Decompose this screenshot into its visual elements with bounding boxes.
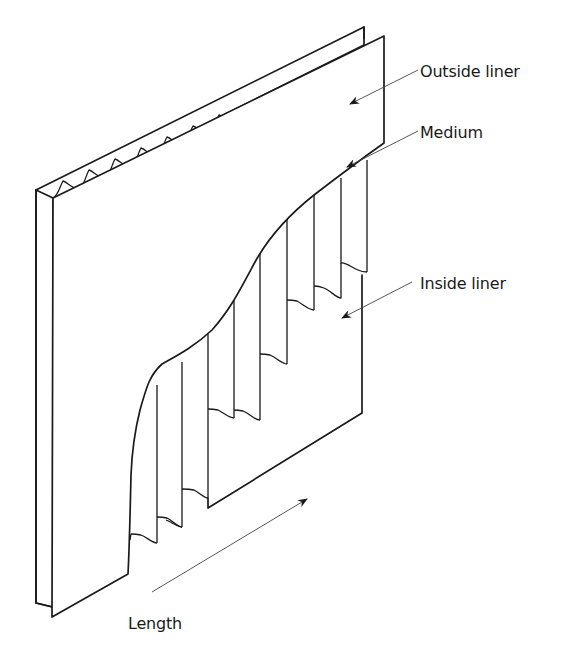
outside-liner-label: Outside liner — [420, 62, 520, 81]
length-label: Length — [128, 614, 182, 633]
corrugated-board-diagram — [0, 0, 562, 672]
inside-liner-label: Inside liner — [420, 274, 506, 293]
inside-liner-panel — [208, 275, 362, 508]
inside-liner-leader — [342, 282, 412, 318]
medium-label: Medium — [420, 123, 483, 142]
outside-liner-panel — [52, 36, 384, 617]
length-arrow — [152, 499, 307, 592]
